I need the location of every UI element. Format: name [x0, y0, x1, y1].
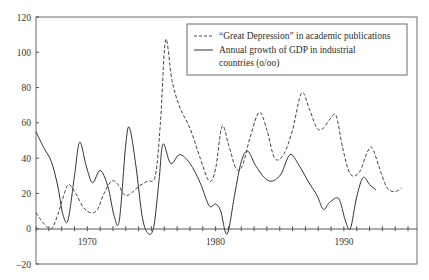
- x-tick-label: 1980: [206, 237, 225, 247]
- y-tick-label: 40: [22, 154, 32, 164]
- y-tick-label: 0: [26, 224, 31, 234]
- series-gdp-growth-line: [36, 127, 376, 235]
- y-tick-label: 60: [22, 118, 32, 128]
- y-tick-label: 20: [22, 189, 32, 199]
- y-tick-label: 100: [17, 48, 32, 58]
- legend-label-great-depression: “Great Depression” in academic publicati…: [219, 31, 391, 41]
- x-tick-label: 1970: [78, 237, 97, 247]
- x-tick-label: 1990: [334, 237, 353, 247]
- y-tick-label: –20: [16, 260, 32, 270]
- legend: “Great Depression” in academic publicati…: [187, 24, 407, 75]
- legend-label-gdp-growth: Annual growth of GDP in industrial: [219, 45, 356, 55]
- y-tick-label: 80: [22, 83, 32, 93]
- line-chart: –20020406080100120 197019801990 “Great D…: [0, 0, 429, 280]
- y-tick-label: 120: [17, 13, 32, 23]
- legend-label-gdp-growth-line2: countries (o/oo): [219, 58, 279, 69]
